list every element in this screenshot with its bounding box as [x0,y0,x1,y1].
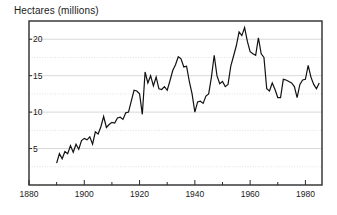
x-tick-label: 1940 [185,189,204,199]
y-tick-label: 15 [33,71,43,81]
gridlines-group [29,39,322,167]
x-tick-label: 1960 [241,189,260,199]
y-tick-label: 10 [33,107,43,117]
x-tick-label: 1980 [296,189,315,199]
plot-frame [29,21,322,185]
x-tick-label: 1920 [130,189,149,199]
y-tick-label: 20 [33,34,43,44]
y-axis-ticks-group: 5101520 [29,34,43,153]
chart-figure: Hectares (millions) 5101520 188019001920… [0,0,337,215]
data-series-line [57,28,320,164]
y-tick-label: 5 [33,144,38,154]
x-axis-ticks-group: 188019001920194019601980 [20,180,316,199]
x-tick-label: 1880 [20,189,39,199]
line-chart: 5101520 188019001920194019601980 [0,0,337,215]
x-tick-label: 1900 [75,189,94,199]
